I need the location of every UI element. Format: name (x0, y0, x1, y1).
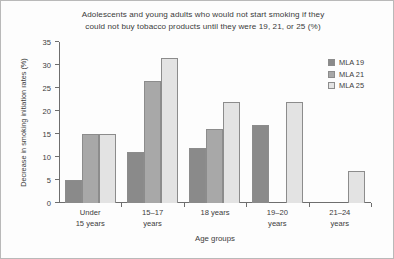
bar-group (184, 42, 246, 203)
legend-swatch (328, 71, 335, 78)
x-tick-label: Under15 years (59, 208, 121, 229)
x-tick (184, 203, 185, 207)
legend-swatch (328, 59, 335, 66)
bar (206, 129, 223, 203)
legend-swatch (328, 82, 335, 89)
chart-figure: Adolescents and young adults who would n… (0, 0, 394, 259)
x-tick (309, 203, 310, 207)
x-tick-label: 15–17years (121, 208, 183, 229)
bar (286, 102, 303, 203)
y-tick-label: 20 (43, 106, 51, 115)
bar-group (246, 42, 308, 203)
x-tick-label-line: years (246, 219, 308, 230)
x-tick-label-line: years (121, 219, 183, 230)
bar (223, 102, 240, 203)
x-tick-label-line: 15 years (59, 219, 121, 230)
x-tick (121, 203, 122, 207)
x-tick-label: 19–20years (246, 208, 308, 229)
x-tick-label: 21–24years (309, 208, 371, 229)
x-tick (371, 203, 372, 207)
x-tick-label: 18 years (184, 208, 246, 219)
chart-legend: MLA 19MLA 21MLA 25 (328, 58, 364, 93)
bar (82, 134, 99, 203)
bar (348, 171, 365, 203)
x-tick-label-line: years (309, 219, 371, 230)
x-tick-label-line: Under (59, 208, 121, 219)
y-tick-label: 10 (43, 152, 51, 161)
x-tick-label-line: 21–24 (309, 208, 371, 219)
plot-area: 05101520253035 (59, 42, 371, 203)
y-tick-label: 5 (47, 175, 51, 184)
y-tick-label: 0 (47, 198, 51, 207)
y-axis-title: Decrease in smoking initiation rates (%) (17, 42, 29, 203)
bar (189, 148, 206, 203)
legend-item: MLA 19 (328, 58, 364, 67)
legend-label: MLA 19 (339, 58, 364, 67)
legend-item: MLA 25 (328, 81, 364, 90)
x-tick (246, 203, 247, 207)
chart-title-line-2: could not buy tobacco products until the… (43, 21, 363, 33)
y-tick-label: 15 (43, 129, 51, 138)
y-tick-label: 30 (43, 60, 51, 69)
bar (144, 81, 161, 203)
y-axis-title-text: Decrease in smoking initiation rates (%) (19, 58, 28, 187)
y-tick-label: 35 (43, 37, 51, 46)
legend-label: MLA 25 (339, 81, 364, 90)
bar-group (59, 42, 121, 203)
y-tick-label: 25 (43, 83, 51, 92)
bar-group (121, 42, 183, 203)
x-tick-label-line: 18 years (184, 208, 246, 219)
chart-title-line-1: Adolescents and young adults who would n… (43, 9, 363, 21)
bar (99, 134, 116, 203)
bar (161, 58, 178, 203)
chart-title: Adolescents and young adults who would n… (43, 9, 363, 32)
bar (127, 152, 144, 203)
bar (65, 180, 82, 203)
x-axis-title: Age groups (59, 234, 371, 243)
legend-label: MLA 21 (339, 70, 364, 79)
x-tick-label-line: 19–20 (246, 208, 308, 219)
bar (252, 125, 269, 203)
legend-item: MLA 21 (328, 70, 364, 79)
x-tick-label-line: 15–17 (121, 208, 183, 219)
